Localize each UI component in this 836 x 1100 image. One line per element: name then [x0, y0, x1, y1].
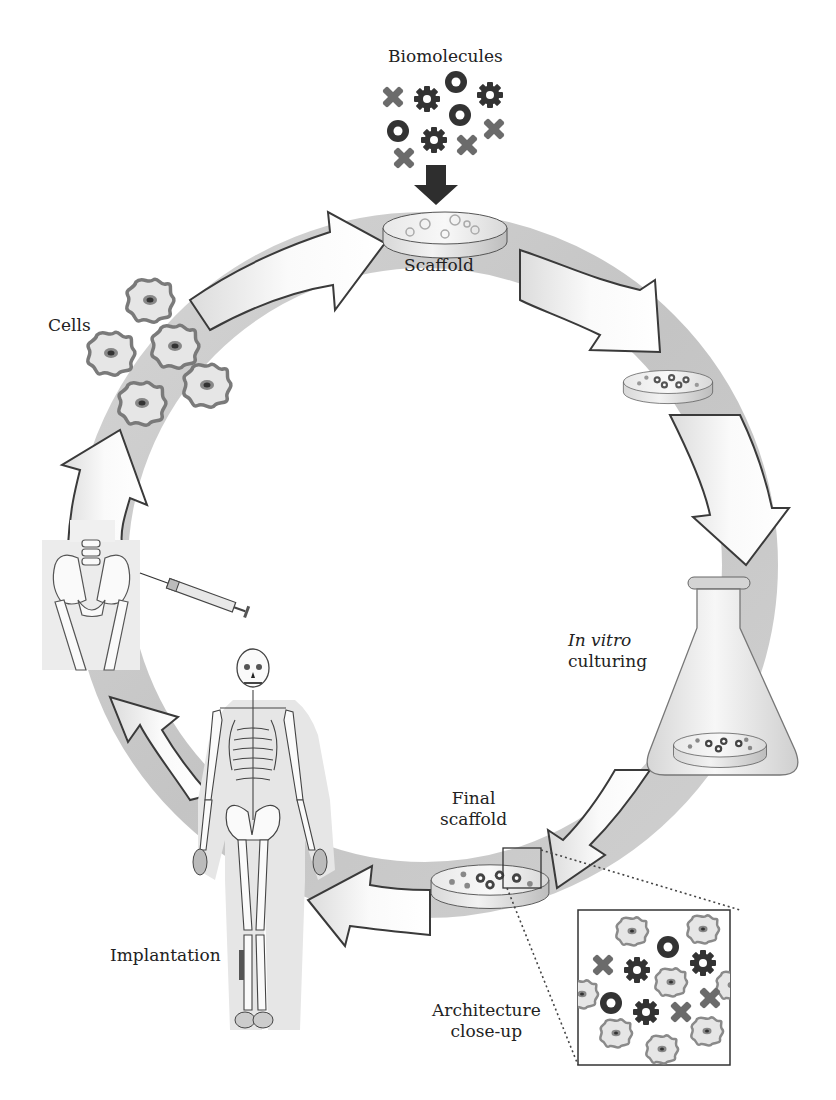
seeded-scaffold-disc-icon — [623, 370, 712, 403]
label-final-scaffold: Final scaffold — [440, 788, 507, 830]
human-skeleton-icon — [193, 649, 335, 1030]
scaffold-disc-icon — [383, 212, 507, 258]
label-final: Final — [452, 788, 496, 808]
label-architecture: Architecture — [432, 1000, 541, 1020]
arrow-cells-to-scaffold — [190, 212, 385, 330]
label-close-up: close-up — [451, 1021, 523, 1041]
label-in-vitro: In vitro — [568, 630, 631, 650]
label-culturing: culturing — [568, 651, 647, 671]
label-architecture-close-up: Architecture close-up — [432, 1000, 541, 1042]
final-scaffold-disc-icon — [431, 865, 549, 909]
label-in-vitro-culturing: In vitro culturing — [568, 630, 647, 672]
label-scaffold: Scaffold — [404, 255, 474, 276]
pelvis-syringe-icon — [42, 520, 250, 670]
architecture-close-up-inset — [566, 910, 748, 1065]
label-implantation: Implantation — [110, 945, 221, 966]
biomolecules-cluster-icon — [382, 71, 505, 169]
label-cells: Cells — [48, 315, 91, 336]
label-biomolecules: Biomolecules — [388, 46, 503, 67]
label-scaffold-2: scaffold — [440, 809, 507, 829]
down-arrow-icon — [414, 165, 458, 205]
tissue-engineering-cycle-diagram: Biomolecules Scaffold Cells In vitro cul… — [0, 0, 836, 1100]
